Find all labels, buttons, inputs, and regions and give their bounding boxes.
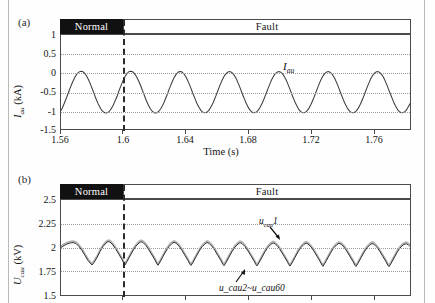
panel-b-xtick-mark-3 [248, 296, 249, 300]
panel-b-tag: (b) [18, 173, 31, 185]
panel-a-y-axis-title: Iau (kA) [12, 85, 26, 118]
panel-a-xtick-1_64: 1.64 [167, 134, 203, 145]
panel-b-status-normal: Normal [60, 184, 123, 199]
panel-a-gridline-0.5 [61, 54, 410, 55]
page-right-rule [424, 0, 425, 303]
panel-b-xtick-mark-5 [374, 296, 375, 300]
panel-a-y-axis-symbol: I [12, 115, 23, 119]
panel-b-fault-marker [123, 185, 125, 297]
panel-b-y-axis-subscript: cau [18, 267, 26, 277]
panel-a-plot-area [60, 34, 411, 130]
panel-b-arrow-ucau1-icon [268, 226, 284, 242]
panel-a-xtick-1_72: 1.72 [293, 134, 329, 145]
panel-a-ytick-0_5: 0.5 [26, 48, 56, 59]
panel-a-ytick-1: 1 [26, 29, 56, 40]
panel-b-xtick-mark-2 [185, 296, 186, 300]
panel-a-ytick-neg1: -1 [22, 106, 56, 117]
panel-b-ytick-2_25: 2.25 [20, 218, 56, 229]
panel-b-status-fault: Fault [123, 184, 411, 199]
panel-a-x-axis-title: Time (s) [186, 146, 256, 157]
panel-b-ytick-2_5: 2.5 [24, 194, 56, 205]
panel-b-y-axis-title: Ucau (kV) [12, 245, 26, 285]
panel-a-y-axis-unit: (kA) [12, 85, 23, 107]
panel-a-fault-marker [123, 20, 125, 131]
panel-a-status-fault: Fault [123, 19, 411, 34]
panel-b-arrow-ucau2-icon [232, 268, 248, 284]
panel-a-series-subscript: au [287, 66, 294, 75]
panel-b-y-axis-symbol: U [12, 277, 23, 285]
panel-b-gridline-2 [61, 248, 410, 249]
panel-a-xtick-1_6: 1.6 [105, 134, 141, 145]
panel-a-gridline-0 [61, 73, 410, 74]
panel-a-gridline-neg0.5 [61, 93, 410, 94]
panel-b-xtick-mark-1 [122, 296, 123, 300]
panel-b-ytick-2: 2 [24, 242, 56, 253]
page-left-rule [8, 0, 9, 303]
panel-a-xtick-1_56: 1.56 [42, 134, 78, 145]
panel-a-series-label: Iau [283, 60, 294, 75]
panel-a-ytick-neg0_5: -0.5 [22, 86, 56, 97]
panel-b-annotation-ucau2-60: u_cau2~u_cau60 [219, 283, 285, 293]
panel-a-tag: (a) [18, 16, 30, 28]
panel-a-gridline-neg1 [61, 112, 410, 113]
panel-a-ytick-0: 0 [26, 67, 56, 78]
panel-b-annotation-ucau1-index: 1 [273, 216, 278, 226]
panel-a-current-trace [61, 35, 410, 129]
panel-a-y-axis-subscript: au [18, 107, 26, 114]
panel-b-y-axis-unit: (kV) [12, 245, 23, 267]
panel-a-xtick-1_68: 1.68 [230, 134, 266, 145]
panel-a-xtick-1_76: 1.76 [356, 134, 392, 145]
panel-b-gridline-2.25 [61, 224, 410, 225]
panel-b-xtick-mark-4 [311, 296, 312, 300]
figure-container: (a) Normal Fault 1 0.5 0 -0.5 -1 -1.5 [0, 0, 435, 303]
panel-a-status-normal: Normal [60, 19, 123, 34]
panel-b-ytick-1_5: 1.5 [24, 290, 56, 301]
